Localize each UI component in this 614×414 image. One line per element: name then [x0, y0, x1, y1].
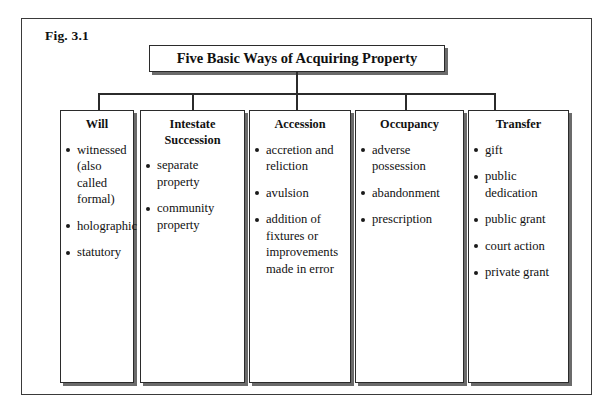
list-item: abandonment [361, 185, 458, 202]
heading-line: Will [66, 117, 128, 133]
list-item: private grant [474, 264, 563, 281]
bullet-icon [474, 244, 478, 248]
category-heading-accession: Accession [255, 117, 345, 133]
bullet-icon [361, 148, 365, 152]
bullet-icon [66, 251, 70, 255]
category-box-transfer: Transfer gift public dedication public g… [468, 110, 569, 383]
category-box-accession: Accession accretion and reliction avulsi… [249, 110, 351, 383]
connector-drop-intestate [192, 93, 194, 111]
category-box-occupancy: Occupancy adverse possession abandonment… [355, 110, 464, 383]
category-box-will: Will witnessed (also called formal) holo… [60, 110, 134, 383]
bullet-icon [146, 164, 150, 168]
list-item: gift [474, 142, 563, 159]
bullet-icon [66, 224, 70, 228]
heading-line: Occupancy [361, 117, 458, 133]
list-item: witnessed (also called formal) [66, 142, 128, 208]
bullet-icon [255, 148, 259, 152]
category-box-intestate: Intestate Succession separate property c… [140, 110, 245, 383]
bullet-icon [474, 218, 478, 222]
list-item: avulsion [255, 185, 345, 202]
category-list-occupancy: adverse possession abandonment prescript… [361, 142, 458, 228]
category-list-intestate: separate property community property [146, 157, 239, 233]
connector-drop-accession [296, 93, 298, 111]
category-list-accession: accretion and reliction avulsion additio… [255, 142, 345, 278]
category-list-will: witnessed (also called formal) holograph… [66, 142, 128, 261]
bullet-icon [474, 271, 478, 275]
category-heading-occupancy: Occupancy [361, 117, 458, 133]
category-heading-will: Will [66, 117, 128, 133]
list-item: public grant [474, 211, 563, 228]
list-item: prescription [361, 211, 458, 228]
list-item: accretion and reliction [255, 142, 345, 175]
bullet-icon [361, 191, 365, 195]
bullet-icon [474, 175, 478, 179]
bullet-icon [361, 218, 365, 222]
category-list-transfer: gift public dedication public grant cour… [474, 142, 563, 281]
title-box: Five Basic Ways of Acquiring Property [149, 45, 445, 72]
connector-drop-transfer [494, 93, 496, 111]
bullet-icon [146, 207, 150, 211]
list-item: holographic [66, 218, 128, 235]
heading-line: Succession [146, 133, 239, 149]
bullet-icon [474, 148, 478, 152]
list-item: court action [474, 238, 563, 255]
list-item: adverse possession [361, 142, 458, 175]
list-item: separate property [146, 157, 239, 190]
category-heading-transfer: Transfer [474, 117, 563, 133]
connector-drop-occupancy [405, 93, 407, 111]
list-item: community property [146, 200, 239, 233]
figure-label: Fig. 3.1 [45, 28, 89, 44]
bullet-icon [66, 148, 70, 152]
connector-drop-will [98, 93, 100, 111]
category-heading-intestate: Intestate Succession [146, 117, 239, 148]
diagram-title: Five Basic Ways of Acquiring Property [177, 50, 418, 67]
bullet-icon [255, 191, 259, 195]
list-item: public dedication [474, 168, 563, 201]
heading-line: Transfer [474, 117, 563, 133]
heading-line: Accession [255, 117, 345, 133]
heading-line: Intestate [146, 117, 239, 133]
list-item: statutory [66, 244, 128, 261]
connector-trunk [296, 72, 298, 93]
bullet-icon [255, 218, 259, 222]
list-item: addition of fixtures or improvements mad… [255, 211, 345, 277]
